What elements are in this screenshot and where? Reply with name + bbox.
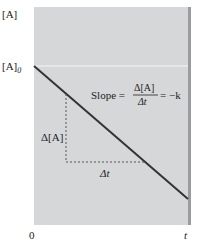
y-axis-label: [A] (2, 8, 17, 20)
slope-numerator: Δ[A] (134, 82, 154, 94)
slope-result: = −k (160, 89, 181, 101)
delta-t-label: Δt (100, 167, 110, 179)
x-origin-label: 0 (29, 229, 35, 241)
slope-text: Slope = (91, 89, 125, 101)
chart-graphics (0, 0, 197, 246)
delta-a-label: Δ[A] (41, 131, 63, 143)
slope-denominator: Δt (138, 96, 147, 108)
x-axis-label: t (184, 229, 187, 241)
y-intercept-label: [A]0 (2, 60, 21, 77)
